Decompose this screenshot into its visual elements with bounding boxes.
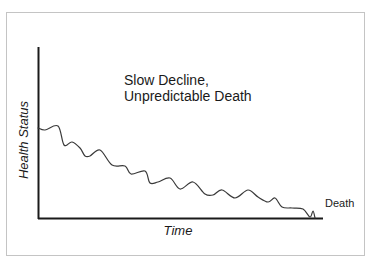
y-axis-label: Health Status	[16, 101, 31, 179]
title-line-1: Slow Decline,	[124, 72, 252, 88]
chart-title: Slow Decline, Unpredictable Death	[124, 72, 252, 104]
death-label: Death	[325, 197, 354, 209]
health-status-curve	[38, 125, 315, 218]
x-axis-label: Time	[164, 223, 193, 238]
title-line-2: Unpredictable Death	[124, 88, 252, 104]
